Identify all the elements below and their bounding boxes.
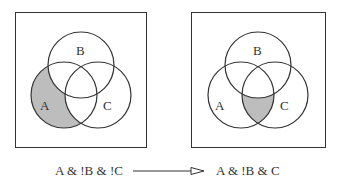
venn-diagram-before: B A C bbox=[16, 13, 147, 148]
label-a: A bbox=[215, 98, 225, 113]
venn-transition-figure: B A C B A C A & !B & !C A & !B & C bbox=[0, 0, 337, 190]
expression-after: A & !B & C bbox=[216, 163, 280, 178]
arrow-icon bbox=[133, 168, 204, 175]
venn-diagram-after: B A C bbox=[190, 10, 330, 150]
label-c: C bbox=[103, 98, 112, 113]
label-b: B bbox=[253, 43, 262, 58]
label-c: C bbox=[280, 98, 289, 113]
label-a: A bbox=[40, 98, 50, 113]
label-b: B bbox=[76, 43, 85, 58]
expression-before: A & !B & !C bbox=[55, 163, 123, 178]
